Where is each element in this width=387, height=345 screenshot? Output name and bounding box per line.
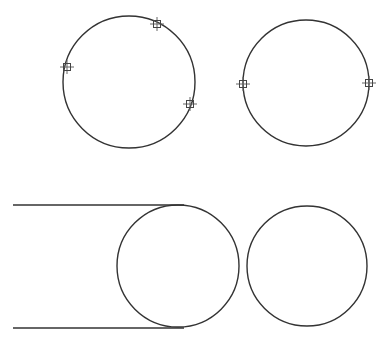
circle-two-points [236, 20, 376, 146]
circle-plain [247, 206, 367, 326]
circle-shape [243, 20, 369, 146]
circle-shape [247, 206, 367, 326]
circle-three-points [60, 16, 197, 148]
circle-shape [63, 16, 195, 148]
diagram-canvas [0, 0, 387, 345]
point-marker-icon [150, 17, 164, 31]
point-marker-icon [60, 60, 74, 74]
point-marker-icon [236, 77, 250, 91]
point-marker-icon [183, 97, 197, 111]
circle-shape [117, 205, 239, 327]
circle-tangent-lines [13, 205, 239, 328]
point-marker-icon [362, 76, 376, 90]
